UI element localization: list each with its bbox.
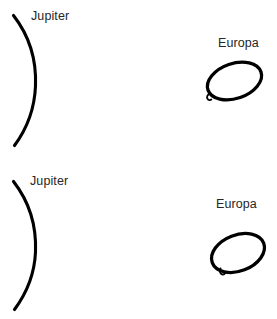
jupiter-limb-arc	[14, 16, 36, 146]
jupiter-label: Jupiter	[30, 174, 68, 188]
europa-label: Europa	[216, 197, 257, 211]
jupiter-limb-arc	[14, 182, 36, 310]
panel-top: Jupiter Europa	[0, 0, 277, 160]
europa-ellipse	[206, 226, 270, 279]
europa-label: Europa	[218, 36, 259, 50]
two-panel-jupiter-europa-figure: Jupiter Europa Jupiter Europa	[0, 0, 277, 319]
jupiter-label: Jupiter	[31, 9, 69, 23]
panel-top-graphic	[0, 0, 277, 160]
panel-bottom: Jupiter Europa	[0, 160, 277, 319]
